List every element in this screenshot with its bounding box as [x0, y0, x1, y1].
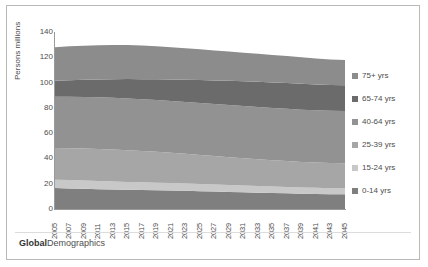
legend-swatch-icon: [352, 142, 358, 148]
legend-swatch-icon: [352, 188, 358, 194]
legend-item[interactable]: 75+ yrs: [352, 64, 422, 87]
legend-swatch-icon: [352, 165, 358, 171]
legend-swatch-icon: [352, 73, 358, 79]
y-tick-label: 0: [19, 205, 53, 213]
chart-legend: 75+ yrs65-74 yrs40-64 yrs25-39 yrs15-24 …: [352, 64, 422, 202]
y-tick-label: 60: [19, 129, 53, 137]
y-tick-label: 80: [19, 104, 53, 112]
y-tick-label: 120: [19, 53, 53, 61]
legend-item[interactable]: 15-24 yrs: [352, 156, 422, 179]
legend-swatch-icon: [352, 96, 358, 102]
stacked-area-plot: [55, 32, 345, 209]
legend-label: 15-24 yrs: [362, 163, 395, 172]
x-axis-tick-labels: 2005200720092011201320152017201920212023…: [55, 211, 347, 239]
legend-item[interactable]: 0-14 yrs: [352, 179, 422, 202]
y-tick-label: 40: [19, 154, 53, 162]
legend-item[interactable]: 65-74 yrs: [352, 87, 422, 110]
y-tick-label: 100: [19, 79, 53, 87]
legend-item[interactable]: 25-39 yrs: [352, 133, 422, 156]
legend-swatch-icon: [352, 119, 358, 125]
brand-light: Demographics: [47, 238, 105, 248]
x-axis-line: [55, 209, 346, 210]
legend-label: 65-74 yrs: [362, 94, 395, 103]
legend-label: 75+ yrs: [362, 71, 388, 80]
legend-label: 25-39 yrs: [362, 140, 395, 149]
y-axis-tick-labels: 140120100806040200: [19, 24, 53, 217]
legend-label: 0-14 yrs: [362, 186, 391, 195]
legend-label: 40-64 yrs: [362, 117, 395, 126]
y-tick-label: 20: [19, 180, 53, 188]
area-band-75-yrs: [55, 45, 345, 85]
y-tick-label: 140: [19, 28, 53, 36]
brand-footer: GlobalDemographics: [19, 238, 105, 248]
footer-divider: [15, 232, 411, 233]
area-series-group: [55, 32, 345, 209]
chart-frame: Persons millions 140120100806040200 2005…: [6, 5, 420, 260]
legend-item[interactable]: 40-64 yrs: [352, 110, 422, 133]
brand-bold: Global: [19, 238, 47, 248]
y-axis-line: [54, 32, 55, 210]
